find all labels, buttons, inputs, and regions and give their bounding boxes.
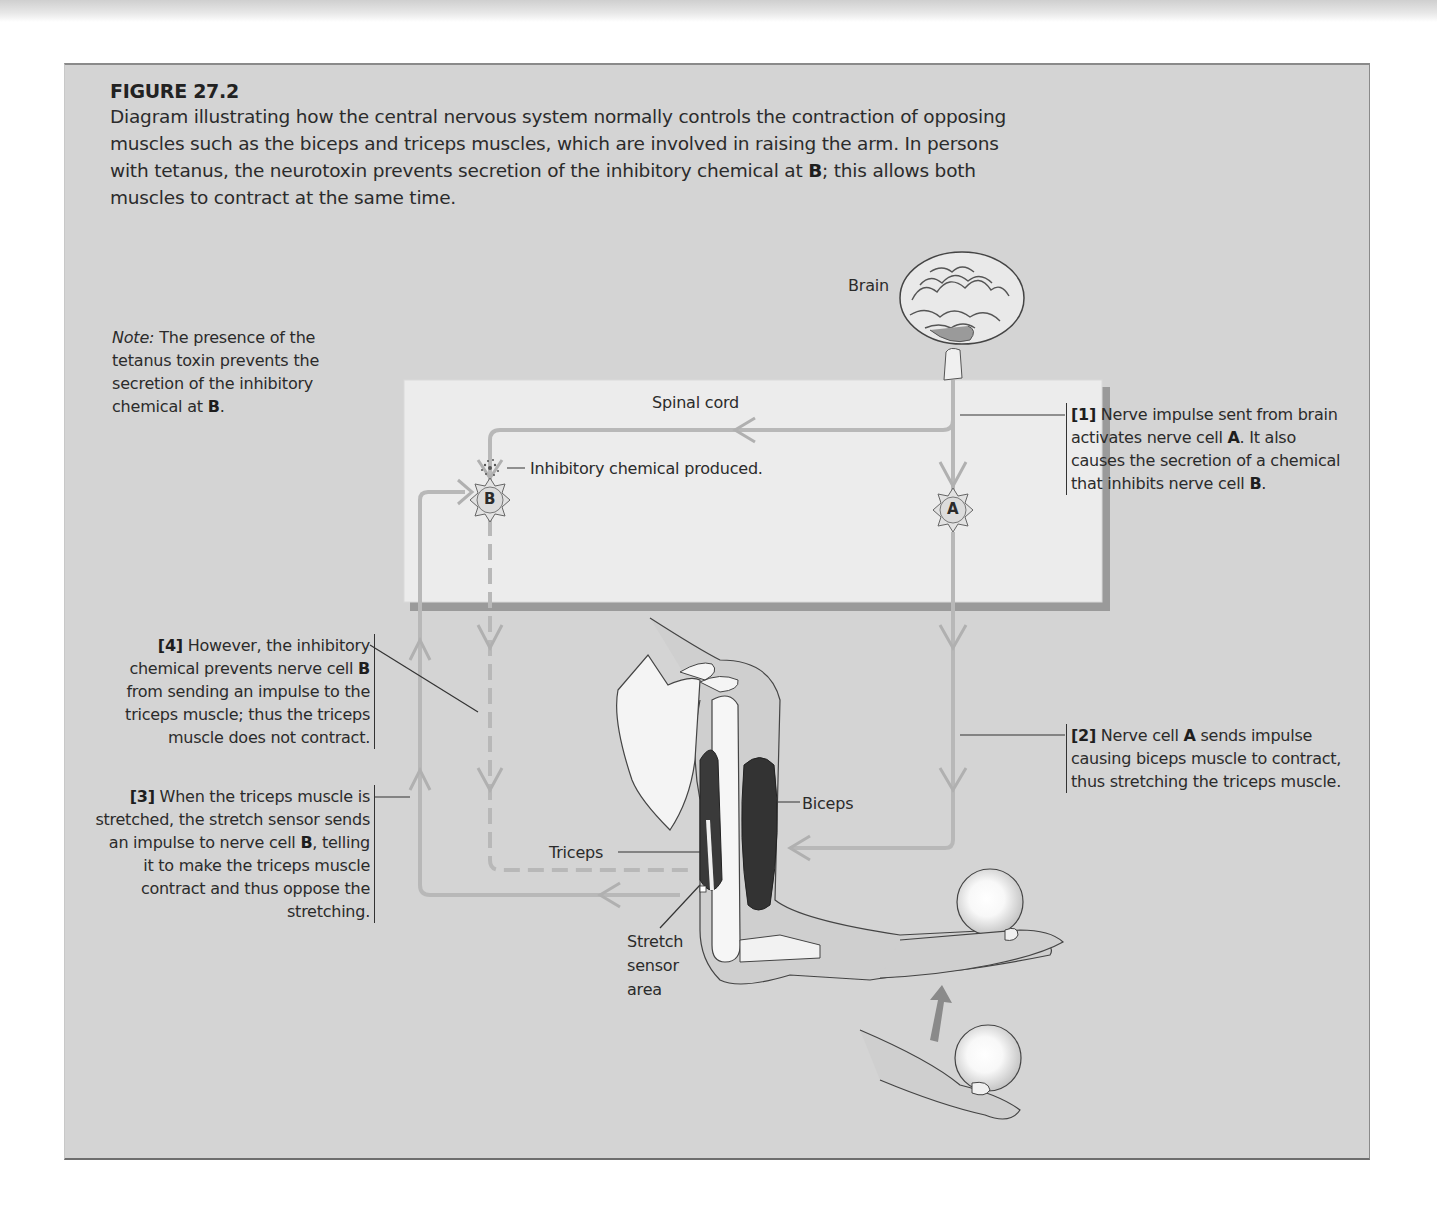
callout-step-3: [3] When the triceps muscle is stretched… — [95, 785, 375, 923]
stretch-sensor-label: Stretch sensor area — [627, 930, 683, 1002]
triceps-label: Triceps — [549, 843, 603, 862]
nerve-cell-b-label: B — [484, 490, 495, 508]
brain-icon — [900, 252, 1024, 380]
callout-step-4: [4] However, the inhibitory chemical pre… — [115, 634, 375, 749]
lower-hand-with-ball — [860, 1025, 1021, 1119]
upper-hand-with-ball — [880, 869, 1063, 978]
spinal-cord-label: Spinal cord — [652, 393, 739, 412]
inhibitory-chemical-label: Inhibitory chemical produced. — [530, 459, 763, 478]
callout-step-2: [2] Nerve cell A sends impulse causing b… — [1066, 724, 1346, 793]
nerve-cell-a-label: A — [947, 500, 958, 518]
raise-arrow-icon — [930, 985, 952, 1042]
biceps-label: Biceps — [802, 794, 853, 813]
brain-label: Brain — [848, 276, 889, 295]
diagram-artwork — [0, 0, 1437, 1225]
callout-step-1: [1] Nerve impulse sent from brain activa… — [1066, 403, 1341, 495]
